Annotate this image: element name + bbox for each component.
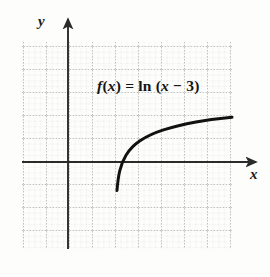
graph-canvas bbox=[0, 0, 270, 277]
formula-equals: = bbox=[121, 77, 138, 94]
formula-x-1: x bbox=[108, 77, 116, 94]
function-graph-figure: y x f(x) = ln (x − 3) bbox=[0, 0, 270, 277]
function-formula-label: f(x) = ln (x − 3) bbox=[97, 78, 200, 94]
formula-minus: − bbox=[169, 77, 186, 94]
formula-paren-close-2: ) bbox=[194, 77, 199, 94]
grid-group bbox=[22, 42, 232, 249]
formula-x-2: x bbox=[161, 77, 169, 94]
formula-three: 3 bbox=[186, 77, 194, 94]
x-axis-label: x bbox=[250, 167, 258, 182]
formula-ln: ln bbox=[138, 77, 155, 94]
y-axis-label: y bbox=[38, 14, 45, 29]
major-gridlines bbox=[22, 42, 232, 249]
